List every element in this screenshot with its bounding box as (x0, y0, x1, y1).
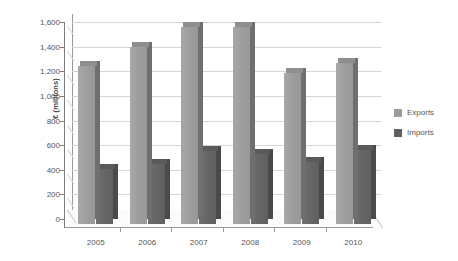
bar-face (78, 66, 95, 224)
x-axis-tick-label: 2010 (344, 238, 362, 247)
y-axis-tick-mark (60, 121, 65, 122)
bar-side (371, 145, 376, 219)
y-axis-tick-label: 1,200 (24, 67, 60, 76)
gridline (72, 170, 381, 171)
bar-top (98, 164, 115, 169)
y-axis-tick-label: 1,400 (24, 42, 60, 51)
y-axis-tick-mark (60, 71, 65, 72)
bar-side (268, 149, 273, 219)
x-axis-tick-label: 2006 (138, 238, 156, 247)
y-axis-tick-mark (60, 170, 65, 171)
gridline (72, 194, 381, 195)
x-axis-tick-mark (120, 227, 121, 232)
bar-exports-2008 (233, 27, 250, 224)
y-axis-tick-mark (60, 96, 65, 97)
y-axis-tick-mark (60, 47, 65, 48)
legend-swatch-icon (394, 129, 402, 137)
bar-face (284, 73, 301, 224)
gridline (72, 47, 381, 48)
bar-face (336, 63, 353, 224)
gridline (72, 145, 381, 146)
gridline (72, 121, 381, 122)
legend-swatch-icon (394, 109, 402, 117)
bar-top (286, 68, 303, 73)
bar-exports-2007 (181, 27, 198, 224)
bar-face (181, 27, 198, 224)
bar-face (233, 27, 250, 224)
x-axis-tick-label: 2005 (87, 238, 105, 247)
bar-face (130, 47, 147, 224)
chart-legend: ExportsImports (394, 108, 456, 148)
plot-area: 200520062007200820092010 (64, 14, 381, 236)
legend-label: Imports (407, 128, 434, 137)
bar-top (183, 22, 200, 27)
gridline-depth-riser (64, 125, 76, 135)
bar-exports-2009 (284, 73, 301, 224)
gridline-depth-riser (64, 100, 76, 110)
bar-top (235, 22, 252, 27)
bar-top (150, 159, 167, 164)
x-axis-tick-mark (171, 227, 172, 232)
bar-side (216, 146, 221, 219)
y-axis-tick-label: 0 (24, 215, 60, 224)
legend-label: Exports (407, 108, 434, 117)
bar-side (113, 164, 118, 219)
y-axis-tick-labels: 1,6001,4001,2001,0008006004002000 (20, 0, 60, 261)
bar-side (198, 22, 203, 219)
bar-top (356, 145, 373, 150)
bar-side (250, 22, 255, 219)
gridline (72, 22, 381, 23)
bar-side (147, 42, 152, 219)
y-axis-tick-label: 400 (24, 165, 60, 174)
bar-exports-2005 (78, 66, 95, 224)
bar-side (165, 159, 170, 219)
gridline (72, 71, 381, 72)
y-axis-tick-label: 200 (24, 190, 60, 199)
plot-floor-left-edge (64, 210, 76, 228)
y-axis-tick-label: 1,600 (24, 18, 60, 27)
y-axis-tick-label: 1,000 (24, 91, 60, 100)
y-axis-tick-mark (60, 219, 65, 220)
x-axis-tick-label: 2009 (293, 238, 311, 247)
x-axis-tick-mark (326, 227, 327, 232)
y-axis-tick-label: 600 (24, 141, 60, 150)
gridline-depth-riser (64, 149, 76, 159)
bar-top (304, 157, 321, 162)
gridline-depth-riser (64, 51, 76, 61)
y-axis-line (64, 22, 65, 228)
gridline (72, 96, 381, 97)
bar-side (95, 61, 100, 219)
y-axis-tick-mark (60, 22, 65, 23)
x-axis-tick-mark (274, 227, 275, 232)
bar-top (80, 61, 97, 66)
legend-item-exports[interactable]: Exports (394, 108, 456, 117)
bar-top (201, 146, 218, 151)
gridline-depth-riser (64, 198, 76, 208)
bar-exports-2010 (336, 63, 353, 224)
x-axis-tick-mark (223, 227, 224, 232)
legend-item-imports[interactable]: Imports (394, 128, 456, 137)
y-axis-tick-mark (60, 145, 65, 146)
bar-chart: € (millions) 1,6001,4001,2001,0008006004… (0, 0, 458, 261)
y-axis-tick-mark (60, 194, 65, 195)
bar-side (319, 157, 324, 219)
bar-side (301, 68, 306, 219)
bar-side (353, 58, 358, 219)
bar-exports-2006 (130, 47, 147, 224)
gridline-depth-riser (64, 75, 76, 85)
plot-floor-front-edge (64, 227, 373, 228)
bar-top (132, 42, 149, 47)
x-axis-tick-label: 2008 (241, 238, 259, 247)
bar-top (253, 149, 270, 154)
gridline-depth-riser (64, 174, 76, 184)
gridline-depth-riser (64, 26, 76, 36)
bar-top (338, 58, 355, 63)
y-axis-tick-label: 800 (24, 116, 60, 125)
x-axis-tick-label: 2007 (190, 238, 208, 247)
